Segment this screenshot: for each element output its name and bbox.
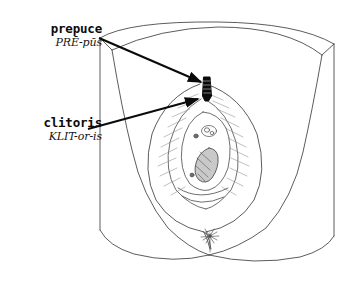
leader-arrows xyxy=(88,38,201,129)
anus xyxy=(201,229,219,252)
prepuce-mark xyxy=(203,77,212,101)
arrow-prepuce xyxy=(99,38,201,82)
label-prepuce-term: prepuce xyxy=(18,22,102,36)
label-prepuce-pronunciation: PRĒ-pūs xyxy=(18,37,102,49)
label-clitoris-term: clitoris xyxy=(6,116,102,130)
label-prepuce: prepuce PRĒ-pūs xyxy=(18,22,102,48)
label-clitoris: clitoris KLIT-or-is xyxy=(6,116,102,142)
thigh-right xyxy=(209,55,334,261)
mons-arc xyxy=(112,27,322,55)
vaginal-opening xyxy=(195,148,218,182)
arrow-clitoris xyxy=(88,99,198,129)
thigh-left xyxy=(100,50,209,259)
anatomy-figure: prepuce PRĒ-pūs clitoris KLIT-or-is xyxy=(0,0,349,282)
label-clitoris-pronunciation: KLIT-or-is xyxy=(6,131,102,143)
